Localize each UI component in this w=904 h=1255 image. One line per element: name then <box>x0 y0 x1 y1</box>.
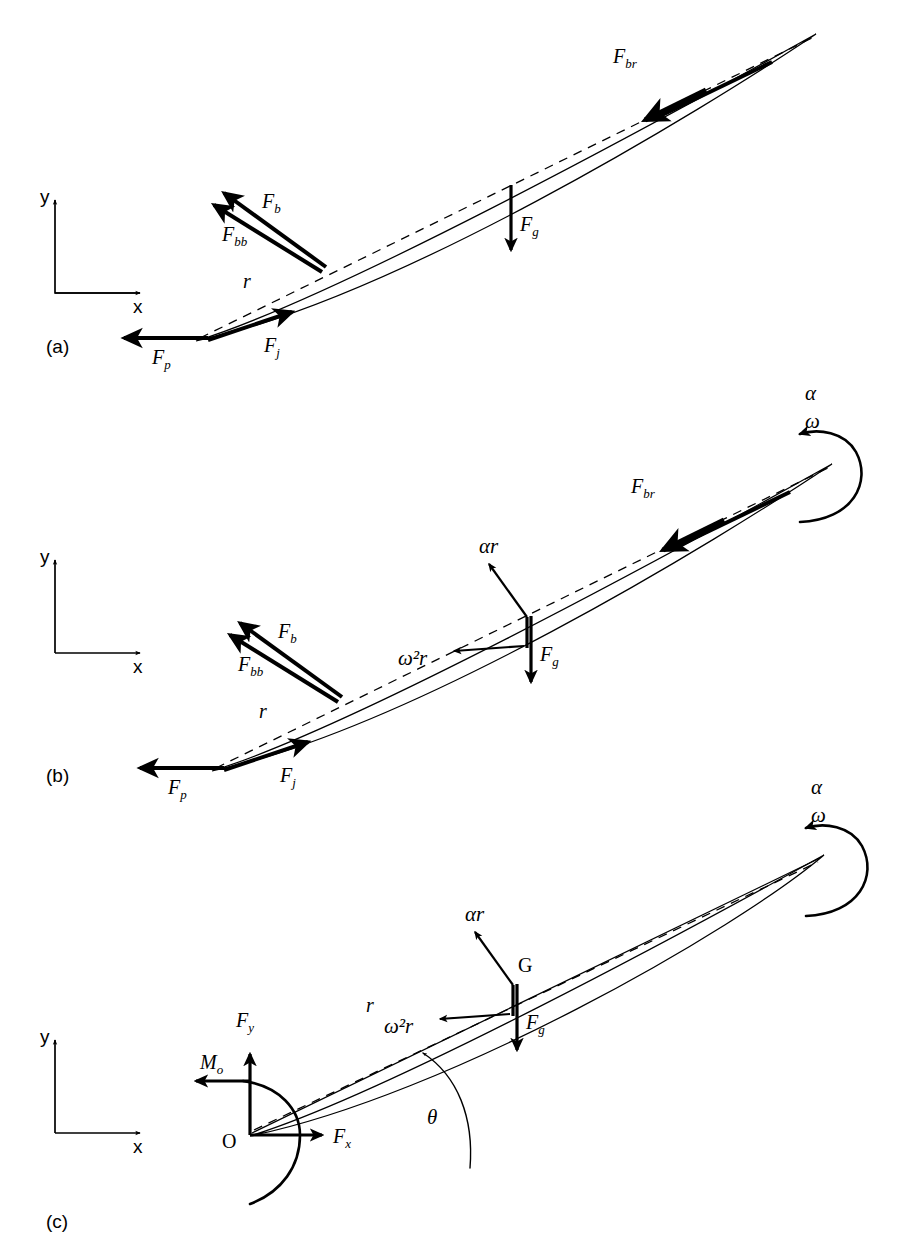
force-fb-b-label: Fb <box>277 620 297 646</box>
force-fb-a-label: Fb <box>261 190 281 216</box>
force-fp-a: Fp <box>124 338 208 372</box>
force-fbb-b: Fbb <box>230 635 338 702</box>
axis-y-label-c: y <box>40 1026 50 1047</box>
axis-x-label-c: x <box>133 1136 143 1157</box>
moment-mo-label: Mo <box>199 1051 224 1077</box>
dimension-r-c: r <box>366 994 374 1016</box>
force-fbr-a: Fbr <box>612 45 772 120</box>
acceleration-omega2r-b-label: ω²r <box>398 646 428 670</box>
omega-label-b: ω <box>805 409 820 433</box>
force-fj-a-label: Fj <box>263 334 280 360</box>
force-fbr-a-label: Fbr <box>612 45 638 71</box>
blade-outline-b <box>212 464 832 771</box>
axes-b: y x <box>40 546 143 677</box>
force-fb-b: Fb <box>240 620 342 697</box>
acceleration-alphar-c: αr <box>465 902 513 985</box>
panel-label-b: (b) <box>46 765 69 786</box>
force-fbb-a-label: Fbb <box>221 223 248 249</box>
force-fp-a-label: Fp <box>151 346 171 372</box>
force-fg-b-label: Fg <box>539 643 559 669</box>
force-fg-c: Fg <box>517 984 545 1050</box>
force-fb-a: Fb <box>224 190 326 267</box>
force-fbr-b-label: Fbr <box>630 475 656 501</box>
point-g-label: G <box>518 954 532 976</box>
force-fy-label: Fy <box>235 1009 254 1035</box>
force-fx-label: Fx <box>332 1125 351 1151</box>
force-fg-a: Fg <box>511 185 539 250</box>
angle-theta-label: θ <box>427 1105 437 1129</box>
free-body-diagram-figure: Fbr Fg Fb Fbb r Fp Fj <box>0 0 904 1255</box>
axes-a: y x <box>40 186 143 317</box>
omega-label-c: ω <box>811 803 826 827</box>
panel-a: Fbr Fg Fb Fbb r Fp Fj <box>40 34 816 372</box>
alpha-label-b: α <box>805 381 817 405</box>
acceleration-alphar-c-label: αr <box>465 902 485 926</box>
blade-outline-c <box>250 855 824 1136</box>
force-fj-b-label: Fj <box>279 764 296 790</box>
force-fbb-a: Fbb <box>214 205 322 272</box>
force-fj-a: Fj <box>208 312 292 360</box>
force-fp-b-label: Fp <box>167 776 187 802</box>
rotation-indicator-c: α ω <box>806 775 867 916</box>
acceleration-alphar-b: αr <box>479 534 527 617</box>
axis-y-label-a: y <box>40 186 50 207</box>
axis-x-label-a: x <box>133 296 143 317</box>
dimension-r-b: r <box>259 700 267 722</box>
force-fg-b: Fg <box>531 616 559 682</box>
force-fbb-b-label: Fbb <box>237 653 264 679</box>
axis-y-label-b: y <box>40 546 50 567</box>
panel-label-c: (c) <box>46 1211 68 1232</box>
force-fp-b: Fp <box>140 768 224 802</box>
acceleration-alphar-b-label: αr <box>479 534 499 558</box>
dimension-r-a: r <box>243 270 251 292</box>
rotation-indicator-b: α ω <box>800 381 861 522</box>
force-fj-b: Fj <box>224 742 308 790</box>
force-fbr-b: Fbr <box>630 475 790 550</box>
point-o-label: O <box>222 1130 236 1152</box>
alpha-label-c: α <box>811 775 823 799</box>
axes-c: y x <box>40 1026 143 1157</box>
acceleration-omega2r-c-label: ω²r <box>384 1014 414 1038</box>
force-fg-a-label: Fg <box>519 213 539 239</box>
blade-outline-a <box>196 34 816 341</box>
panel-b: α ω Fbr αr ω²r Fg Fb <box>40 381 861 802</box>
panel-c: α ω αr G ω²r Fg r θ <box>40 775 867 1232</box>
panel-label-a: (a) <box>46 336 69 357</box>
axis-x-label-b: x <box>133 656 143 677</box>
